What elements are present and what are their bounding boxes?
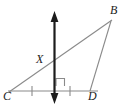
vertex-label-b: B: [110, 4, 117, 16]
segment-cb: [9, 20, 112, 92]
segment-bd: [90, 21, 111, 91]
arrow-up-icon: [51, 11, 59, 22]
geometry-canvas: [0, 0, 128, 107]
geometry-figure: B C D X: [0, 0, 128, 107]
right-angle-icon: [56, 79, 65, 87]
arrow-down-icon: [51, 93, 59, 104]
vertex-label-c: C: [3, 90, 11, 102]
vertex-label-d: D: [88, 90, 97, 102]
point-label-x: X: [36, 53, 43, 65]
